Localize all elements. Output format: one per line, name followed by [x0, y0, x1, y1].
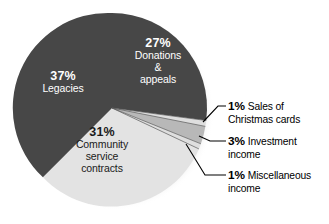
callout-text-christmas-line1: Sales of	[248, 101, 284, 112]
callout-text-investment-line2: income	[228, 149, 260, 160]
slice-text-community-line2: service	[86, 150, 119, 162]
callout-text-christmas-line2: Christmas cards	[228, 114, 300, 125]
callout-investment-income: 3% Investment income	[228, 134, 328, 161]
slice-label-donations: 27% Donations & appeals	[118, 36, 198, 85]
callout-percent-miscellaneous-income: 1%	[228, 168, 245, 182]
slice-text-donations-line1: Donations	[135, 49, 181, 61]
slice-text-donations-line2: &	[155, 61, 162, 73]
callout-percent-investment-income: 3%	[228, 134, 245, 148]
pie-chart: 27% Donations & appeals 37% Legacies 31%…	[0, 0, 329, 224]
slice-percent-donations: 27%	[118, 36, 198, 50]
slice-text-community-line3: contracts	[81, 162, 123, 174]
slice-percent-community-service: 31%	[58, 125, 146, 139]
slice-text-legacies-line1: Legacies	[42, 82, 83, 94]
callout-text-investment-line1: Investment	[248, 136, 297, 147]
slice-label-legacies: 37% Legacies	[22, 69, 104, 95]
callout-miscellaneous-income: 1% Miscellaneous income	[228, 168, 329, 195]
callout-text-misc-line2: income	[228, 183, 260, 194]
callout-text-misc-line1: Miscellaneous	[248, 170, 311, 181]
slice-text-community-line1: Community	[76, 138, 128, 150]
slice-text-donations-line3: appeals	[140, 73, 176, 85]
callout-percent-christmas-cards: 1%	[228, 99, 245, 113]
slice-percent-legacies: 37%	[22, 69, 104, 83]
callout-christmas-cards: 1% Sales of Christmas cards	[228, 99, 328, 126]
slice-label-community-service: 31% Community service contracts	[58, 125, 146, 174]
